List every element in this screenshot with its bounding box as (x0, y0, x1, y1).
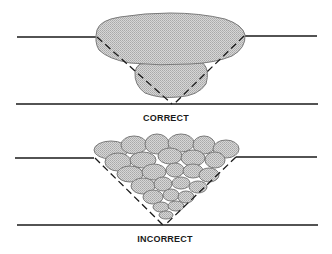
incorrect-weld-diagram (15, 134, 318, 225)
cap-bead (96, 13, 245, 65)
root-bead (135, 62, 208, 98)
stringer-beads (94, 134, 239, 219)
weld-diagram-canvas (0, 0, 332, 254)
correct-label: CORRECT (0, 113, 332, 123)
correct-weld-diagram (16, 13, 318, 104)
incorrect-label: INCORRECT (0, 234, 331, 244)
